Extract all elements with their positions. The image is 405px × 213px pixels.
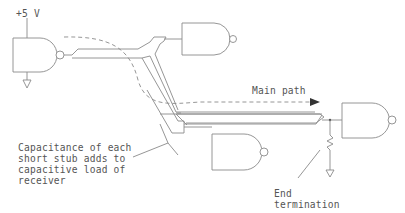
- receiver-gate-end: [322, 103, 396, 138]
- receiver-gate-bottom: [184, 127, 268, 170]
- termination-resistor: [326, 120, 334, 177]
- driver-gate: [13, 18, 64, 88]
- stub-leader-line: [133, 124, 178, 157]
- main-path-label: Main path: [252, 85, 306, 96]
- receiver-gate-top: [182, 23, 237, 55]
- termination-line-2: termination: [274, 199, 340, 210]
- stub-note: Capacitance of each short stub adds to c…: [18, 142, 132, 186]
- termination-leader-line: [298, 150, 320, 178]
- stub-note-line-2: short stub adds to: [18, 153, 132, 164]
- stub-note-line-3: capacitive load of: [18, 164, 132, 175]
- supply-label: +5 V: [16, 8, 40, 19]
- termination-line-1: End: [274, 188, 340, 199]
- stub-note-line-1: Capacitance of each: [18, 142, 132, 153]
- stub-note-line-4: receiver: [18, 175, 132, 186]
- termination-note: End termination: [274, 188, 340, 210]
- arrow-head-icon: [310, 98, 320, 106]
